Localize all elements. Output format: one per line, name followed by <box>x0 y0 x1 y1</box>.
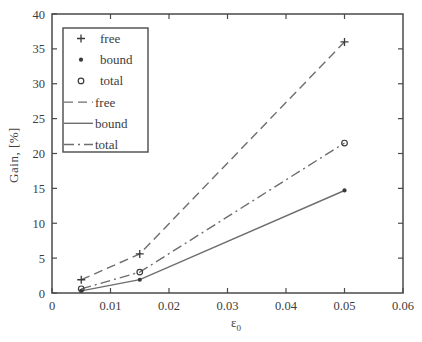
series-bound <box>79 188 346 293</box>
y-tick-label: 10 <box>33 217 46 231</box>
gain-line-chart: 00.010.020.030.040.050.06051015202530354… <box>0 0 422 342</box>
y-tick-label: 35 <box>33 42 46 56</box>
y-tick-label: 20 <box>33 147 46 161</box>
x-tick-label: 0.05 <box>334 299 356 313</box>
y-tick-label: 15 <box>33 182 46 196</box>
legend-label: total <box>95 137 118 152</box>
y-tick-label: 30 <box>33 77 46 91</box>
plus-marker <box>77 276 85 284</box>
x-axis-label: ε0 <box>231 315 241 333</box>
dot-marker <box>79 58 83 62</box>
dot-marker <box>138 278 142 282</box>
x-tick-label: 0 <box>49 299 55 313</box>
x-tick-label: 0.06 <box>392 299 414 313</box>
legend-box <box>63 28 148 152</box>
x-tick-label: 0.01 <box>100 299 122 313</box>
x-axis-label-subscript: 0 <box>236 323 241 333</box>
y-tick-label: 40 <box>33 8 46 22</box>
legend-label: total <box>100 73 123 88</box>
legend-label: bound <box>100 52 133 67</box>
legend: freeboundtotalfreeboundtotal <box>63 28 148 152</box>
legend-label: free <box>95 95 115 110</box>
legend-label: bound <box>95 116 128 131</box>
total-line <box>81 143 344 289</box>
plus-marker <box>136 250 144 258</box>
y-tick-label: 5 <box>39 252 45 266</box>
y-tick-label: 0 <box>39 287 45 301</box>
x-tick-label: 0.03 <box>217 299 239 313</box>
y-tick-label: 25 <box>33 112 46 126</box>
y-axis-label: Gain, [%] <box>6 127 22 183</box>
chart-figure: 00.010.020.030.040.050.06051015202530354… <box>0 0 422 342</box>
series-total <box>78 140 347 291</box>
dot-marker <box>342 188 346 192</box>
bound-line <box>81 191 344 291</box>
x-tick-label: 0.02 <box>158 299 180 313</box>
legend-label: free <box>100 31 120 46</box>
x-tick-label: 0.04 <box>275 299 298 313</box>
